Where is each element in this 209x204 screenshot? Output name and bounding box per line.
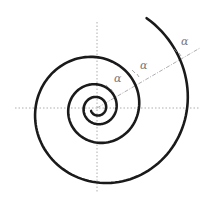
spiral-diagram [0,0,209,204]
angle-label-3: α [181,36,188,47]
angle-label-2: α [140,60,147,71]
angle-label-1: α [114,73,121,84]
logarithmic-spiral [35,18,188,183]
